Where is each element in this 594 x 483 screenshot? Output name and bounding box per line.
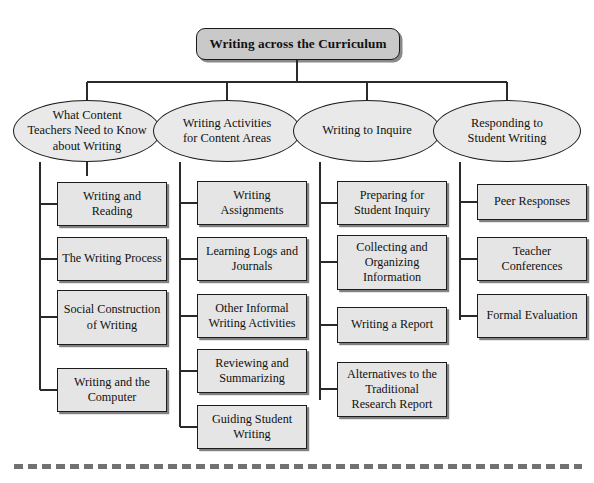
leaf-node-3-2-line3: Information — [363, 270, 421, 284]
leaf-node-2-1-line1: Writing — [233, 188, 270, 202]
leaf-node-3-3-line1: Writing a Report — [351, 317, 433, 331]
leaf-node-3-3[interactable]: Writing a Report — [337, 307, 447, 343]
leaf-node-1-4[interactable]: Writing and the Computer — [57, 368, 167, 412]
leaf-node-2-2-line1: Learning Logs — [206, 244, 277, 258]
branch-node-4-line1: Responding to — [468, 116, 547, 131]
branch-node-4-line2: Student Writing — [468, 131, 547, 146]
leaf-node-2-2[interactable]: Learning Logs and Journals — [197, 237, 307, 281]
branch-node-2[interactable]: Writing Activities for Content Areas — [153, 100, 301, 162]
leaf-node-3-1-line1: Preparing for — [360, 188, 425, 202]
branch-node-1-line2: Teachers Need to Know — [27, 123, 146, 138]
branch-node-1[interactable]: What Content Teachers Need to Know about… — [13, 100, 161, 162]
branch-node-1-line1: What Content — [27, 108, 146, 123]
leaf-node-2-1-line2: Assignments — [221, 203, 284, 217]
leaf-node-1-4-line2: Computer — [88, 390, 137, 404]
leaf-node-4-2-line2: Conferences — [502, 259, 563, 273]
leaf-node-2-4-line1: Reviewing and — [215, 356, 288, 370]
leaf-node-3-2-line2: Organizing — [365, 255, 420, 269]
leaf-node-2-5-line2: Writing — [233, 427, 270, 441]
leaf-node-2-5[interactable]: Guiding Student Writing — [197, 405, 307, 449]
branch-node-2-line2: for Content Areas — [183, 131, 272, 146]
leaf-node-4-3-line2: Evaluation — [525, 308, 578, 322]
root-node-label: Writing across the Curriculum — [209, 36, 386, 52]
leaf-node-3-4-line3: Research Report — [352, 397, 433, 411]
leaf-node-1-3-line3: of Writing — [87, 318, 137, 332]
branch-node-2-text: Writing Activities for Content Areas — [183, 116, 272, 146]
leaf-node-1-4-line1: Writing and the — [74, 375, 150, 389]
diagram-canvas: Writing across the Curriculum What Conte… — [0, 0, 594, 483]
leaf-node-3-4[interactable]: Alternatives to the Traditional Research… — [337, 362, 447, 417]
leaf-node-2-3-line2: Writing Activities — [208, 316, 295, 330]
branch-node-4[interactable]: Responding to Student Writing — [433, 100, 581, 162]
leaf-node-4-2[interactable]: Teacher Conferences — [477, 237, 587, 281]
branch-node-4-text: Responding to Student Writing — [468, 116, 547, 146]
leaf-node-2-3[interactable]: Other Informal Writing Activities — [197, 294, 307, 338]
branch-node-2-line1: Writing Activities — [183, 116, 272, 131]
branch-node-3-text: Writing to Inquire — [322, 123, 412, 138]
leaf-node-1-1[interactable]: Writing and Reading — [57, 182, 167, 226]
leaf-node-1-3-line2: Construction — [97, 302, 160, 316]
leaf-node-2-4[interactable]: Reviewing and Summarizing — [197, 349, 307, 393]
leaf-node-4-1-line1: Peer Responses — [494, 194, 570, 208]
branch-node-3-line1: Writing to Inquire — [322, 123, 412, 138]
leaf-node-3-2-line1: Collecting and — [356, 240, 427, 254]
leaf-node-1-3-line1: Social — [64, 302, 94, 316]
root-node[interactable]: Writing across the Curriculum — [196, 28, 400, 60]
leaf-node-1-2-line1: The Writing — [62, 251, 121, 265]
leaf-node-3-1[interactable]: Preparing for Student Inquiry — [337, 181, 447, 225]
branch-node-3[interactable]: Writing to Inquire — [293, 100, 441, 162]
leaf-node-4-3-line1: Formal — [486, 308, 521, 322]
leaf-node-2-3-line1: Other Informal — [215, 301, 288, 315]
leaf-node-3-4-line1: Alternatives — [347, 367, 407, 381]
branch-node-1-line3: about Writing — [27, 139, 146, 154]
leaf-node-2-5-line1: Guiding Student — [212, 412, 292, 426]
scanned-page-edge — [14, 464, 582, 469]
leaf-node-3-1-line2: Student Inquiry — [354, 203, 430, 217]
leaf-node-2-1[interactable]: Writing Assignments — [197, 181, 307, 225]
leaf-node-2-4-line2: Summarizing — [219, 371, 285, 385]
branch-node-1-text: What Content Teachers Need to Know about… — [27, 108, 146, 153]
leaf-node-1-1-line1: Writing — [83, 189, 120, 203]
leaf-node-1-2[interactable]: The Writing Process — [57, 237, 167, 281]
leaf-node-1-2-line2: Process — [125, 251, 162, 265]
leaf-node-4-1[interactable]: Peer Responses — [477, 184, 587, 220]
leaf-node-4-2-line1: Teacher — [513, 244, 551, 258]
leaf-node-3-2[interactable]: Collecting and Organizing Information — [337, 235, 447, 290]
leaf-node-1-3[interactable]: Social Construction of Writing — [57, 290, 167, 345]
leaf-node-4-3[interactable]: Formal Evaluation — [477, 294, 587, 338]
